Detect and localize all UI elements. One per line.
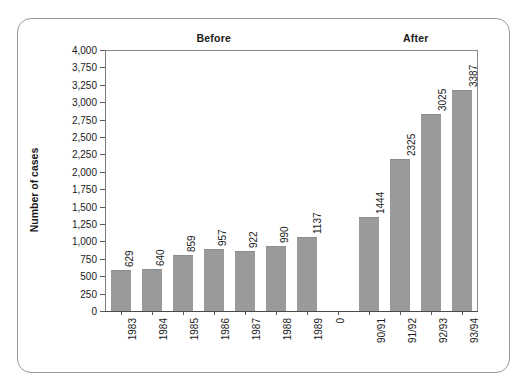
y-tick-label: 1,500	[72, 201, 97, 212]
y-tick-label: 3,000	[72, 97, 97, 108]
y-tick-mark	[100, 154, 105, 155]
y-tick-mark	[100, 311, 105, 312]
y-tick-mark	[100, 85, 105, 86]
bar-value-label: 3025	[437, 88, 448, 110]
y-tick-label: 4,000	[72, 45, 97, 56]
x-tick-mark	[431, 311, 432, 315]
y-tick-label: 2,750	[72, 114, 97, 125]
bar[interactable]: 629	[111, 270, 131, 311]
x-tick-label: 1985	[188, 318, 199, 340]
bar-value-label: 1444	[375, 192, 386, 214]
y-tick-label: 2,500	[72, 132, 97, 143]
x-tick-mark	[214, 311, 215, 315]
bar[interactable]: 640	[142, 269, 162, 311]
y-tick-mark	[100, 224, 105, 225]
y-tick-mark	[100, 172, 105, 173]
x-tick-label: 1983	[126, 318, 137, 340]
plot-area: 02505007501,0001,2501,5001,7502,0002,250…	[105, 50, 478, 311]
x-tick-label: 93/94	[469, 318, 480, 343]
y-tick-label: 500	[80, 271, 97, 282]
x-tick-label: 1989	[313, 318, 324, 340]
x-tick-mark	[338, 311, 339, 315]
y-tick-mark	[100, 67, 105, 68]
y-tick-mark	[100, 294, 105, 295]
y-tick-label: 1,750	[72, 184, 97, 195]
y-tick-mark	[100, 259, 105, 260]
x-tick-label: 1988	[282, 318, 293, 340]
x-tick-mark	[245, 311, 246, 315]
x-tick-mark	[183, 311, 184, 315]
x-tick-label: 91/92	[407, 318, 418, 343]
y-tick-label: 2,250	[72, 149, 97, 160]
x-tick-mark	[121, 311, 122, 315]
x-tick-label: 1986	[219, 318, 230, 340]
x-tick-label: 1987	[251, 318, 262, 340]
y-tick-mark	[100, 276, 105, 277]
y-tick-mark	[100, 102, 105, 103]
y-tick-label: 3,750	[72, 62, 97, 73]
bar[interactable]: 957	[204, 249, 224, 311]
bar[interactable]: 1137	[297, 237, 317, 311]
x-tick-mark	[307, 311, 308, 315]
y-tick-label: 3,250	[72, 79, 97, 90]
y-tick-mark	[100, 137, 105, 138]
y-tick-mark	[100, 50, 105, 51]
x-tick-label: 90/91	[376, 318, 387, 343]
plot-frame-top	[105, 50, 478, 51]
group-label-after: After	[403, 32, 429, 44]
y-tick-label: 1,250	[72, 219, 97, 230]
chart-figure: Number of cases Before After 02505007501…	[0, 0, 527, 390]
bar-value-label: 859	[186, 235, 197, 252]
bar[interactable]: 922	[235, 251, 255, 311]
x-tick-label: 0	[335, 318, 346, 324]
bar-value-label: 990	[279, 227, 290, 244]
y-axis-title: Number of cases	[28, 120, 42, 260]
x-tick-mark	[152, 311, 153, 315]
bar-value-label: 3387	[468, 65, 479, 87]
x-tick-mark	[462, 311, 463, 315]
bar-value-label: 957	[217, 229, 228, 246]
y-axis-line	[105, 50, 106, 312]
bar-value-label: 640	[154, 250, 165, 267]
x-tick-label: 92/93	[438, 318, 449, 343]
bar[interactable]: 3387	[452, 90, 472, 311]
y-tick-label: 250	[80, 288, 97, 299]
y-tick-mark	[100, 120, 105, 121]
x-tick-mark	[400, 311, 401, 315]
y-tick-label: 2,000	[72, 166, 97, 177]
x-tick-mark	[369, 311, 370, 315]
bar-value-label: 2325	[406, 134, 417, 156]
y-tick-mark	[100, 241, 105, 242]
bar-value-label: 1137	[312, 212, 323, 234]
x-tick-mark	[276, 311, 277, 315]
bar[interactable]: 990	[266, 246, 286, 311]
bar[interactable]: 2325	[390, 159, 410, 311]
x-axis-line	[105, 311, 478, 312]
group-label-before: Before	[197, 32, 231, 44]
bar[interactable]: 3025	[421, 114, 441, 311]
bar-value-label: 922	[248, 231, 259, 248]
plot-frame-right	[477, 50, 478, 312]
y-tick-label: 0	[91, 306, 97, 317]
y-tick-label: 1,000	[72, 236, 97, 247]
bar[interactable]: 1444	[359, 217, 379, 311]
x-tick-label: 1984	[157, 318, 168, 340]
y-tick-mark	[100, 189, 105, 190]
y-tick-mark	[100, 207, 105, 208]
bar[interactable]: 859	[173, 255, 193, 311]
bar-value-label: 629	[123, 250, 134, 267]
y-tick-label: 750	[80, 253, 97, 264]
